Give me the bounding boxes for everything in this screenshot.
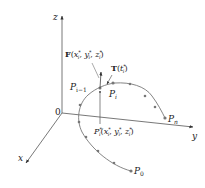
p-n-label: Pn [167, 114, 178, 125]
p-0-label: P0 [133, 166, 144, 177]
curve-point [78, 121, 81, 124]
x-axis [26, 113, 62, 163]
point-pn [163, 116, 166, 119]
curve-point [97, 150, 100, 153]
point-p-i [111, 81, 114, 84]
curve-point [85, 136, 88, 139]
curve-point [144, 95, 147, 98]
curve-point [79, 104, 82, 107]
curve-point [154, 106, 157, 109]
y-axis-label: y [191, 131, 198, 141]
p-i-label: Pi [108, 89, 117, 100]
origin-label: 0 [55, 107, 61, 117]
p-star-label: P*i(x*i, y*i, z*i) [93, 126, 134, 137]
force-vector-arrow [100, 72, 101, 88]
curve-point [113, 162, 116, 165]
line-integral-diagram: z y x 0 F(x*i, y*i, z*i) T(t*i) Pi−1 Pi … [0, 0, 205, 188]
force-leader-line [92, 63, 99, 78]
point-p0 [129, 169, 132, 172]
z-axis-label: z [52, 12, 58, 22]
tangent-leader-arrow [107, 75, 112, 84]
tangent-label: T(t*i) [111, 63, 128, 74]
point-p-star [99, 91, 101, 93]
x-axis-label: x [18, 153, 23, 163]
force-label: F(x*i, y*i, z*i) [65, 49, 104, 60]
p-i-minus-1-label: Pi−1 [69, 82, 87, 93]
curve-point [129, 83, 132, 86]
